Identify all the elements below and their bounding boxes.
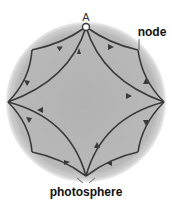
label-photosphere: photosphere — [50, 185, 123, 199]
label-a: A — [82, 11, 90, 23]
photosphere-disk — [6, 22, 166, 182]
photosphere-field-diagram: A node photosphere — [0, 0, 173, 203]
node-a — [83, 24, 90, 31]
label-node: node — [138, 25, 167, 39]
